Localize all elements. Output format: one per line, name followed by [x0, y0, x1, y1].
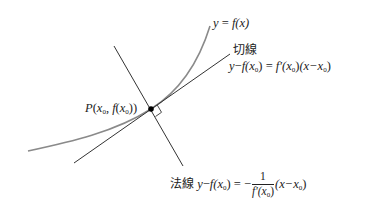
right-angle-marker: [156, 105, 162, 116]
point-label-part: )): [129, 101, 137, 115]
curve-label: y = f(x): [213, 17, 249, 30]
normal-equation: 法線 y−f(x0) = −1f′(x0)(x−x0): [170, 171, 306, 199]
eq-term: (x: [213, 177, 223, 191]
fraction-numerator: 1: [252, 171, 274, 185]
fraction: 1f′(x0): [252, 171, 274, 199]
eq-term: ): [302, 177, 306, 191]
curve-label-arg: (x): [235, 16, 249, 30]
eq-term: (x−x: [299, 59, 323, 73]
eq-term: ): [327, 59, 331, 73]
eq-term: (x: [245, 59, 255, 73]
point-p: [148, 106, 154, 112]
point-label: P(x0, f(x0)): [85, 102, 137, 116]
diagram-canvas: [0, 0, 366, 199]
fraction-denominator: f′(x0): [252, 185, 274, 199]
eq-term: (x: [258, 185, 267, 197]
eq-term: =: [263, 59, 276, 73]
curve-label-y: y: [213, 16, 219, 30]
point-label-p: P: [85, 101, 93, 115]
eq-term: −: [235, 59, 242, 73]
eq-term: = −: [231, 177, 251, 191]
eq-term: (x−x: [275, 177, 299, 191]
curve-f: [28, 26, 210, 151]
tangent-equation: y−f(x0) = f′(x0)(x−x0): [229, 60, 331, 74]
curve-label-eq: =: [222, 16, 229, 30]
eq-term: −: [203, 177, 210, 191]
tangent-name: 切線: [233, 44, 257, 56]
normal-name: 法線: [170, 177, 194, 191]
eq-term: (x: [282, 59, 292, 73]
eq-term: ): [270, 185, 274, 197]
